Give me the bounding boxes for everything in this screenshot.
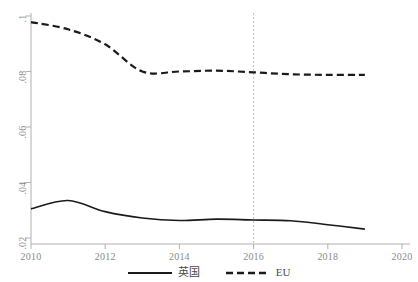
- legend-line-swatch: [226, 268, 270, 278]
- legend-label: EU: [276, 267, 291, 278]
- x-axis-ticks: [31, 244, 402, 249]
- legend-line-swatch: [128, 268, 172, 278]
- line-chart: .1.08.06.04.02 201020122014201620182020 …: [0, 0, 418, 282]
- x-tick-label: 2018: [308, 251, 348, 262]
- y-tick-label: .04: [17, 181, 28, 211]
- x-tick-label: 2014: [159, 251, 199, 262]
- axis-lines: [31, 13, 410, 244]
- legend-item[interactable]: EU: [226, 267, 291, 278]
- chart-legend: 英国EU: [0, 263, 418, 282]
- x-tick-label: 2020: [382, 251, 418, 262]
- series-line-eu: [31, 22, 365, 75]
- x-tick-label: 2016: [234, 251, 274, 262]
- series-layer: [31, 22, 365, 229]
- y-tick-label: .08: [17, 70, 28, 100]
- x-tick-label: 2012: [85, 251, 125, 262]
- y-tick-label: .1: [17, 15, 28, 45]
- plot-area: [0, 0, 418, 282]
- x-tick-label: 2010: [11, 251, 51, 262]
- y-tick-label: .06: [17, 126, 28, 156]
- legend-item[interactable]: 英国: [128, 267, 200, 278]
- series-line-uk: [31, 201, 365, 230]
- legend-label: 英国: [178, 267, 200, 278]
